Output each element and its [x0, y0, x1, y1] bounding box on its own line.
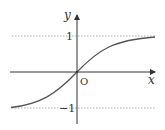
y-axis-label: y: [63, 8, 71, 22]
origin-point: [76, 71, 78, 73]
tick-label-minus-1: −1: [59, 102, 75, 115]
tick-label-1: 1: [66, 30, 73, 43]
function-graph: y x O 1 −1: [0, 0, 165, 130]
origin-label: O: [80, 76, 88, 87]
x-axis-label: x: [148, 73, 155, 87]
